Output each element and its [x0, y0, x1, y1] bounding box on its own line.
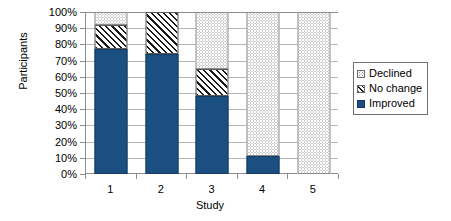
bar-segment-improved[interactable] — [145, 54, 178, 174]
x-tick-mark — [136, 174, 137, 179]
plot-area — [85, 12, 338, 174]
x-tick-label: 1 — [107, 184, 113, 195]
bar-segment-improved[interactable] — [247, 156, 280, 174]
legend-swatch-nochange-icon — [357, 85, 365, 93]
legend-label: No change — [369, 83, 422, 94]
stacked-bar[interactable] — [145, 12, 178, 173]
legend-item[interactable]: No change — [357, 81, 422, 96]
x-tick-mark — [85, 174, 86, 179]
x-tick-label: 5 — [310, 184, 316, 195]
y-tick-label: 100% — [49, 7, 77, 18]
legend-label: Improved — [369, 98, 415, 109]
stacked-bar[interactable] — [297, 12, 330, 173]
bar-segment-nochange[interactable] — [145, 12, 178, 54]
y-tick-label: 60% — [55, 71, 77, 82]
x-tick-label: 4 — [259, 184, 265, 195]
legend-item[interactable]: Improved — [357, 96, 422, 111]
x-tick-mark — [237, 174, 238, 179]
legend-swatch-declined-icon — [357, 70, 365, 78]
bar-segment-nochange[interactable] — [196, 69, 229, 97]
bar-segment-declined[interactable] — [95, 12, 128, 25]
y-tick-label: 70% — [55, 55, 77, 66]
y-tick-label: 10% — [55, 152, 77, 163]
y-tick-label: 90% — [55, 23, 77, 34]
bar-segment-nochange[interactable] — [95, 25, 128, 49]
x-axis-tick-labels: 12345 — [85, 174, 338, 198]
legend-swatch-improved-icon — [357, 100, 365, 108]
y-tick-label: 20% — [55, 136, 77, 147]
bar-segment-declined[interactable] — [297, 12, 330, 174]
bar-segment-improved[interactable] — [196, 96, 229, 174]
bar-category — [137, 12, 188, 173]
stacked-bar[interactable] — [95, 12, 128, 173]
y-tick-label: 0% — [61, 169, 77, 180]
y-tick-label: 50% — [55, 88, 77, 99]
bar-category — [86, 12, 137, 173]
x-tick-mark — [338, 174, 339, 179]
bar-series-group — [86, 12, 338, 173]
bar-segment-declined[interactable] — [196, 12, 229, 69]
y-tick-label: 40% — [55, 104, 77, 115]
legend-item[interactable]: Declined — [357, 66, 422, 81]
y-axis-tick-labels: 0%10%20%30%40%50%60%70%80%90%100% — [0, 12, 85, 174]
bar-category — [288, 12, 339, 173]
stacked-bar-chart: Participants 0%10%20%30%40%50%60%70%80%9… — [0, 0, 451, 221]
chart-legend: DeclinedNo changeImproved — [353, 62, 428, 115]
stacked-bar[interactable] — [196, 12, 229, 173]
x-tick-mark — [186, 174, 187, 179]
x-tick-label: 2 — [158, 184, 164, 195]
stacked-bar[interactable] — [247, 12, 280, 173]
legend-label: Declined — [369, 68, 412, 79]
bar-category — [238, 12, 289, 173]
x-axis-title: Study — [80, 199, 340, 211]
x-tick-mark — [287, 174, 288, 179]
bar-category — [187, 12, 238, 173]
y-tick-label: 30% — [55, 120, 77, 131]
x-tick-label: 3 — [208, 184, 214, 195]
y-tick-label: 80% — [55, 39, 77, 50]
bar-segment-declined[interactable] — [247, 12, 280, 156]
bar-segment-improved[interactable] — [95, 49, 128, 174]
